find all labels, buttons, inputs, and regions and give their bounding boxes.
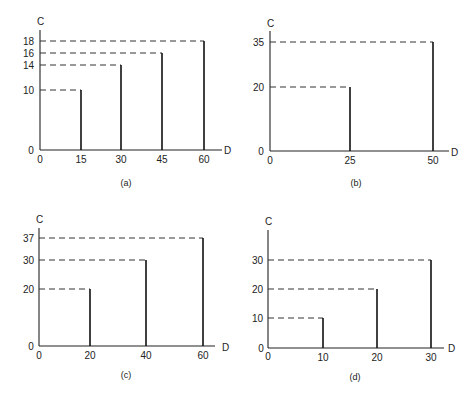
- y-axis-label: C: [36, 214, 43, 225]
- x-tick-label: 30: [115, 154, 127, 165]
- origin-x-label: 0: [265, 351, 271, 362]
- y-tick-label: 20: [253, 82, 265, 93]
- panel-caption: (c): [121, 370, 132, 380]
- panel-caption: (b): [351, 178, 362, 188]
- y-axis-label: C: [267, 18, 274, 29]
- x-tick-label: 20: [371, 352, 383, 363]
- y-tick-label: 18: [23, 36, 35, 47]
- x-axis-label: D: [224, 145, 231, 156]
- y-tick-label: 20: [23, 284, 35, 295]
- origin-x-label: 0: [37, 154, 43, 165]
- origin-y-label: 0: [28, 341, 34, 352]
- x-tick-label: 15: [75, 154, 87, 165]
- panel-a: C D 0 0 10 14 16 18 15 30 45 60 (a): [23, 16, 231, 188]
- x-axis-label: D: [451, 147, 458, 158]
- x-tick-label: 30: [425, 352, 437, 363]
- panel-d: C D 0 0 10 20 30 10 20 30 (d): [252, 216, 455, 382]
- x-tick-label: 60: [198, 154, 210, 165]
- x-tick-label: 10: [317, 352, 329, 363]
- y-axis-label: C: [37, 16, 44, 27]
- panel-c: C D 0 0 20 30 37 20 40 60 (c): [23, 214, 229, 380]
- y-tick-label: 37: [23, 233, 35, 244]
- origin-y-label: 0: [258, 146, 264, 157]
- y-tick-label: 14: [23, 60, 35, 71]
- y-axis-label: C: [265, 216, 272, 227]
- panel-b: C D 0 0 20 35 25 50 (b): [253, 18, 458, 188]
- x-tick-label: 50: [427, 155, 439, 166]
- origin-x-label: 0: [267, 155, 273, 166]
- origin-y-label: 0: [28, 145, 34, 156]
- y-tick-label: 10: [23, 85, 35, 96]
- panel-caption: (a): [121, 178, 132, 188]
- x-axis-label: D: [448, 343, 455, 354]
- x-tick-label: 40: [140, 350, 152, 361]
- x-tick-label: 25: [344, 155, 356, 166]
- origin-x-label: 0: [36, 350, 42, 361]
- y-tick-label: 16: [23, 48, 35, 59]
- y-tick-label: 30: [23, 255, 35, 266]
- y-tick-label: 10: [252, 313, 264, 324]
- y-tick-label: 20: [252, 284, 264, 295]
- x-tick-label: 20: [84, 350, 96, 361]
- x-tick-label: 45: [156, 154, 168, 165]
- figure: C D 0 0 10 14 16 18 15 30 45 60 (a) C D …: [0, 0, 472, 400]
- y-tick-label: 30: [252, 255, 264, 266]
- x-axis-label: D: [222, 342, 229, 353]
- panel-caption: (d): [350, 372, 361, 382]
- y-tick-label: 35: [253, 37, 265, 48]
- x-tick-label: 60: [197, 350, 209, 361]
- origin-y-label: 0: [258, 343, 264, 354]
